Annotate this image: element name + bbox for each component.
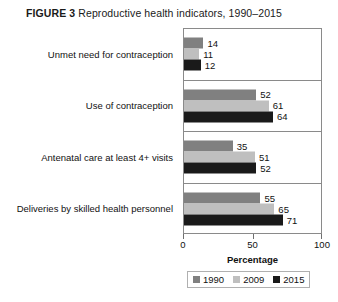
bar-group: 141112 (184, 38, 321, 71)
bar-value-label: 14 (203, 38, 218, 49)
x-axis-tick-label: 100 (314, 239, 330, 250)
legend-swatch-icon (273, 276, 280, 283)
legend-item-2015: 2015 (273, 274, 304, 285)
bar-1990 (184, 141, 233, 152)
bar-2015 (184, 215, 283, 226)
chart-group-row: 526164 (184, 81, 321, 133)
category-axis-labels: Unmet need for contraceptionUse of contr… (0, 28, 178, 234)
bar-1990 (184, 89, 256, 100)
bar-2009 (184, 204, 274, 215)
bar-value-label: 51 (255, 152, 270, 163)
bar-value-label: 52 (256, 163, 271, 174)
bar-2015 (184, 163, 256, 174)
figure-caption: Reproductive health indicators, 1990–201… (78, 7, 282, 19)
legend-item-2009: 2009 (233, 274, 264, 285)
x-axis-tick-labels: 050100 (183, 239, 322, 253)
legend-swatch-icon (193, 276, 200, 283)
bar-value-label: 11 (199, 49, 213, 60)
bar-value-label: 65 (274, 204, 289, 215)
legend-label: 2015 (283, 274, 304, 285)
bar-1990 (184, 38, 203, 49)
category-label: Unmet need for contraception (0, 48, 173, 59)
bar-1990 (184, 193, 260, 204)
bar-value-label: 55 (260, 193, 275, 204)
bar-group: 556571 (184, 193, 321, 226)
legend-label: 2009 (243, 274, 264, 285)
bar-value-label: 35 (233, 141, 248, 152)
bar-2015 (184, 111, 273, 122)
bar-2009 (184, 100, 269, 111)
category-label: Antenatal care at least 4+ visits (0, 151, 173, 162)
bar-2009 (184, 49, 199, 60)
category-label: Use of contraception (0, 100, 173, 111)
legend-swatch-icon (233, 276, 240, 283)
legend-item-1990: 1990 (193, 274, 224, 285)
x-axis-tick-label: 50 (247, 239, 258, 250)
x-axis-tick-label: 0 (180, 239, 185, 250)
bar-group: 355152 (184, 141, 321, 174)
legend-label: 1990 (203, 274, 224, 285)
chart-group-row: 141112 (184, 29, 321, 81)
plot-area: 141112526164355152556571 (183, 28, 322, 234)
chart-group-row: 556571 (184, 184, 321, 236)
bar-group: 526164 (184, 89, 321, 122)
chart-legend: 199020092015 (187, 271, 310, 288)
bar-value-label: 52 (256, 89, 271, 100)
bar-chart: Unmet need for contraceptionUse of contr… (0, 26, 338, 302)
category-label: Deliveries by skilled health personnel (0, 203, 173, 214)
x-axis-title: Percentage (183, 254, 322, 265)
bar-2015 (184, 60, 201, 71)
bar-value-label: 61 (269, 100, 284, 111)
chart-group-row: 355152 (184, 132, 321, 184)
bar-value-label: 64 (273, 111, 288, 122)
bar-value-label: 71 (283, 215, 298, 226)
bar-value-label: 12 (201, 60, 216, 71)
bar-2009 (184, 152, 255, 163)
figure-title: FIGURE 3 Reproductive health indicators,… (26, 7, 282, 19)
figure-number: FIGURE 3 (26, 7, 75, 19)
